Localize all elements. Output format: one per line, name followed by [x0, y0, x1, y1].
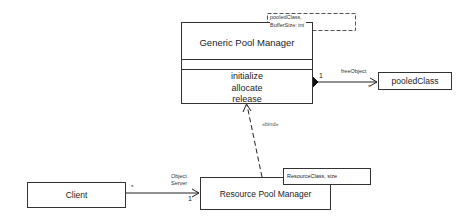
multiplicity-target: * — [368, 84, 370, 90]
binding-params: ResourceClass, size — [287, 173, 337, 179]
template-param: pooledClass, — [270, 14, 304, 22]
class-name: pooledClass — [392, 76, 439, 86]
operations-compartment: initialize allocate release — [182, 70, 312, 106]
class-name: Generic Pool Manager — [199, 37, 294, 48]
role-line: Server — [171, 180, 187, 187]
operation: allocate — [182, 83, 312, 95]
bind-stereotype-label: «bind» — [262, 121, 279, 127]
binding-param-box: ResourceClass, size — [283, 168, 371, 185]
bind-dependency-line — [247, 105, 262, 177]
class-generic-pool-manager[interactable]: Generic Pool Manager initialize allocate… — [181, 22, 313, 104]
class-name: Client — [66, 190, 88, 200]
template-param: BufferSize: int — [270, 22, 304, 30]
class-client[interactable]: Client — [27, 182, 126, 208]
role-label: freeObject — [341, 68, 366, 74]
role-label: Object Server — [171, 173, 187, 187]
attributes-compartment — [182, 60, 312, 70]
operation: initialize — [182, 71, 312, 83]
template-param-text: pooledClass, BufferSize: int — [270, 14, 306, 29]
class-pooled-class[interactable]: pooledClass — [378, 72, 452, 90]
class-name: Resource Pool Manager — [220, 189, 312, 199]
operation: release — [182, 94, 312, 106]
multiplicity-source: * — [131, 184, 133, 190]
multiplicity-source: 1 — [319, 72, 323, 79]
multiplicity-target: 1 — [188, 195, 192, 202]
role-line: Object — [171, 173, 187, 180]
